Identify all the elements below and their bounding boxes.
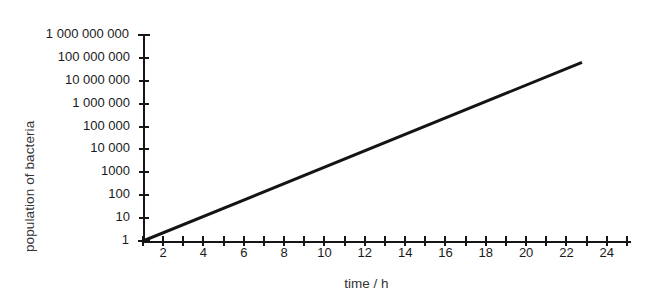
y-axis-tick-label: 10 [116, 208, 130, 225]
x-axis-tick-label: 8 [269, 245, 299, 260]
y-axis-tick-label: 100 000 [83, 117, 130, 134]
y-axis-tick-label: 1 000 000 [72, 94, 130, 111]
series-line-population [143, 63, 581, 241]
y-axis-tick-label: 1 [122, 231, 129, 248]
data-series-layer [143, 35, 631, 243]
x-axis-tick-label: 22 [551, 245, 581, 260]
plot-area: 110100100010 000100 0001 000 00010 000 0… [143, 35, 631, 242]
x-axis-title: time / h [344, 276, 388, 291]
x-axis-title-wrap: time / h [0, 276, 651, 291]
x-axis-tick-label: 2 [148, 245, 178, 260]
y-axis-tick-label: 1 000 000 000 [46, 25, 129, 42]
x-axis-tick-label: 16 [430, 245, 460, 260]
x-axis-tick-label: 6 [229, 245, 259, 260]
x-axis-tick-label: 12 [350, 245, 380, 260]
x-axis-tick-label: 10 [309, 245, 339, 260]
y-axis-tick-label: 10 000 [90, 139, 130, 156]
x-axis-tick-label: 14 [390, 245, 420, 260]
x-axis-tick-label: 24 [592, 245, 622, 260]
y-axis-title: population of bacteria [22, 12, 44, 252]
semi-log-population-chart: population of bacteria 110100100010 0001… [0, 0, 651, 306]
y-axis-tick-label: 100 000 000 [58, 48, 130, 65]
y-axis-tick-label: 10 000 000 [65, 71, 130, 88]
y-axis-tick-label: 1000 [101, 162, 130, 179]
x-axis-tick-label: 4 [188, 245, 218, 260]
x-axis-tick-label: 20 [511, 245, 541, 260]
y-axis-tick-label: 100 [108, 185, 130, 202]
x-axis-tick-label: 18 [471, 245, 501, 260]
